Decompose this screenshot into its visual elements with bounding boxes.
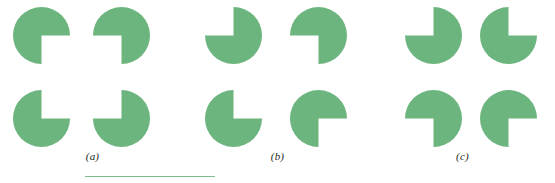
inducer-disc-path xyxy=(480,7,537,64)
inducer-disc-path xyxy=(93,7,150,64)
kanizsa-figure: (a) xyxy=(0,0,555,183)
inducer-b-top-left xyxy=(205,7,262,64)
inducer-disc-path xyxy=(13,90,70,147)
pacman-wedge-icon xyxy=(13,7,70,64)
panel-c: (c) xyxy=(370,0,555,183)
inducer-c-bottom-right xyxy=(480,90,537,147)
inducer-b-bottom-left xyxy=(205,90,262,147)
pacman-wedge-icon xyxy=(405,90,462,147)
panel-b: (b) xyxy=(185,0,370,183)
inducer-disc-path xyxy=(205,90,262,147)
scale-bar xyxy=(85,176,215,177)
pacman-wedge-icon xyxy=(480,90,537,147)
panel-label-a: (a) xyxy=(0,150,185,162)
inducer-b-top-right xyxy=(290,7,347,64)
inducer-disc-path xyxy=(205,7,262,64)
inducer-disc-path xyxy=(405,7,462,64)
pacman-wedge-icon xyxy=(405,7,462,64)
inducer-disc-path xyxy=(480,90,537,147)
pacman-wedge-icon xyxy=(205,7,262,64)
pacman-wedge-icon xyxy=(93,7,150,64)
pacman-wedge-icon xyxy=(290,7,347,64)
inducer-a-top-right xyxy=(93,7,150,64)
inducer-disc-path xyxy=(290,7,347,64)
panel-a: (a) xyxy=(0,0,185,183)
inducer-disc-path xyxy=(13,7,70,64)
inducer-b-bottom-right xyxy=(290,90,347,147)
inducer-disc-path xyxy=(290,90,347,147)
pacman-wedge-icon xyxy=(290,90,347,147)
inducer-c-top-left xyxy=(405,7,462,64)
inducer-a-bottom-left xyxy=(13,90,70,147)
panel-c-inducer-grid xyxy=(370,0,555,150)
pacman-wedge-icon xyxy=(205,90,262,147)
inducer-a-top-left xyxy=(13,7,70,64)
inducer-a-bottom-right xyxy=(93,90,150,147)
panel-label-c: (c) xyxy=(370,150,555,162)
inducer-disc-path xyxy=(405,90,462,147)
pacman-wedge-icon xyxy=(93,90,150,147)
inducer-c-top-right xyxy=(480,7,537,64)
panel-a-inducer-grid xyxy=(0,0,185,150)
panel-label-b: (b) xyxy=(185,150,370,162)
inducer-disc-path xyxy=(93,90,150,147)
inducer-c-bottom-left xyxy=(405,90,462,147)
pacman-wedge-icon xyxy=(480,7,537,64)
pacman-wedge-icon xyxy=(13,90,70,147)
panel-b-inducer-grid xyxy=(185,0,370,150)
